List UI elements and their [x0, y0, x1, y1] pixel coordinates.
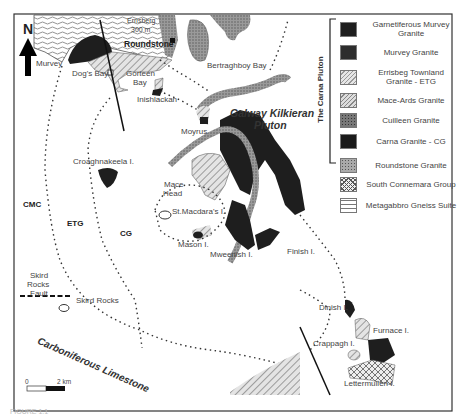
- legend-item: Roundstone Granite: [340, 158, 457, 173]
- etg-label: ETG: [67, 219, 83, 228]
- swatch-dark-stipple: [340, 45, 357, 60]
- dinish-label: Dinish I.: [319, 303, 348, 312]
- cuilleen-band: [200, 78, 288, 110]
- inishlackan-label: Inishlackan: [137, 95, 177, 104]
- swatch-solid-dark: [340, 134, 357, 149]
- galway-pluton-label-1: Galway Kilkieran: [230, 107, 314, 119]
- legend-item: Errisbeg Townland Granite - ETG: [340, 68, 457, 86]
- map-legend: The Carna Pluton Garnetiferous Murvey Gr…: [326, 17, 452, 267]
- mason-label: Mason I.: [178, 240, 209, 249]
- st-macdaras-label: St.Macdara's I.: [172, 207, 225, 216]
- swatch-wavy: [340, 198, 357, 213]
- fault-line-south: [300, 327, 330, 395]
- mace-head-label-1: Mace: [164, 180, 184, 189]
- errisberg-label: Errisberg: [127, 16, 155, 25]
- croaghnakeela-label: Croaghnakeela I.: [73, 157, 134, 166]
- galway-pluton-label-2: Pluton: [254, 119, 287, 131]
- figure-caption: FIGURE 1.1: [10, 408, 48, 415]
- scale-start-label: 0: [25, 377, 29, 386]
- north-label: N: [23, 25, 33, 34]
- skird-rocks-label: Skird Rocks: [76, 296, 119, 305]
- legend-item: South Connemara Group: [340, 177, 457, 192]
- cmc-label: CMC: [23, 200, 41, 209]
- swatch-grey-stipple: [340, 113, 357, 128]
- skird-fault-label-1: Skird: [30, 271, 48, 280]
- murvey-label: Murvey: [36, 59, 62, 68]
- cg-label: CG: [120, 229, 132, 238]
- gorteen-bay-label-1: Gorteen: [126, 69, 155, 78]
- etg-limestone-area: [230, 352, 300, 395]
- legend-item: Mace-Ards Granite: [340, 93, 457, 108]
- furnace-label: Furnace I.: [373, 326, 409, 335]
- legend-item: Cuilleen Granite: [340, 113, 457, 128]
- legend-item: Carna Granite - CG: [340, 134, 457, 149]
- legend-item: Garnetiferous Murvey Granite: [340, 20, 457, 38]
- scale-end-label: 2 km: [57, 377, 71, 386]
- mweenish-label: Mweenish I.: [210, 250, 253, 259]
- scale-bar: [27, 386, 46, 391]
- skird-fault-label-2: Rocks: [27, 280, 49, 289]
- moyrus-label: Moyrus: [181, 127, 207, 136]
- legend-item: Metagabbro Gneiss Suite: [340, 198, 457, 213]
- legend-item: Murvey Granite: [340, 45, 457, 60]
- bertraghboy-bay-label: Bertraghboy Bay: [207, 61, 267, 70]
- swatch-crosshatch: [340, 177, 357, 192]
- swatch-hatch-light: [340, 70, 357, 85]
- finish-label: Finish I.: [287, 247, 315, 256]
- roundstone-label: Roundstone: [124, 40, 174, 49]
- crappagh-label: Crappagh I.: [313, 339, 355, 348]
- swatch-hatch: [340, 93, 357, 108]
- swatch-light-stipple: [340, 158, 357, 173]
- carna-pluton-title: The Carna Pluton: [316, 40, 325, 140]
- gorteen-bay-label-2: Bay: [133, 78, 147, 87]
- mace-head-label-2: Head: [163, 189, 182, 198]
- dogs-bay-label: Dog's Bay: [72, 69, 108, 78]
- lettermullen-label: Lettermullen I.: [344, 379, 395, 388]
- mace-ards-granite-area: [192, 153, 230, 200]
- errisberg-height-label: 300 m: [131, 25, 150, 34]
- skird-fault-label-3: Fault: [30, 289, 48, 298]
- swatch-solid-dark: [340, 22, 357, 37]
